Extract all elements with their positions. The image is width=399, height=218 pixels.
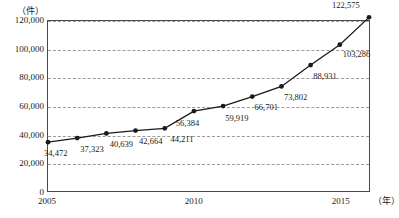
data-value-label: 122,575 bbox=[332, 1, 360, 10]
data-value-label: 56,384 bbox=[176, 119, 199, 128]
data-point bbox=[46, 140, 51, 145]
data-point bbox=[367, 15, 372, 20]
data-value-label: 44,211 bbox=[170, 135, 193, 144]
data-point bbox=[337, 42, 342, 47]
data-point bbox=[75, 136, 80, 141]
y-axis-tick-label: 120,000 bbox=[0, 16, 44, 25]
data-value-label: 34,472 bbox=[44, 149, 67, 158]
data-point bbox=[192, 109, 197, 114]
x-axis-unit-label: （年） bbox=[373, 197, 399, 206]
data-point bbox=[250, 94, 255, 99]
data-point bbox=[162, 126, 167, 131]
data-value-label: 37,323 bbox=[80, 145, 103, 154]
y-axis-tick-label: 20,000 bbox=[0, 159, 44, 168]
data-value-label: 103,286 bbox=[343, 50, 371, 59]
series-layer bbox=[48, 21, 369, 191]
x-axis-tick-label: 2010 bbox=[174, 197, 214, 206]
data-point bbox=[104, 131, 109, 136]
data-value-label: 40,639 bbox=[110, 140, 133, 149]
x-axis-tick-label: 2005 bbox=[27, 197, 67, 206]
y-axis-tick-label: 80,000 bbox=[0, 73, 44, 82]
data-point bbox=[279, 84, 284, 89]
data-value-label: 88,931 bbox=[313, 72, 336, 81]
y-axis-tick-label: 60,000 bbox=[0, 102, 44, 111]
data-point bbox=[308, 63, 313, 68]
x-axis-tick-label: 2015 bbox=[321, 197, 361, 206]
data-point bbox=[221, 104, 226, 109]
data-value-label: 59,919 bbox=[225, 114, 248, 123]
data-value-label: 66,701 bbox=[255, 103, 278, 112]
y-axis-tick-label: 40,000 bbox=[0, 131, 44, 140]
y-axis-tick-label: 100,000 bbox=[0, 45, 44, 54]
data-value-label: 42,664 bbox=[139, 137, 162, 146]
data-value-label: 73,802 bbox=[284, 93, 307, 102]
plot-area bbox=[47, 20, 370, 192]
data-point bbox=[133, 128, 138, 133]
